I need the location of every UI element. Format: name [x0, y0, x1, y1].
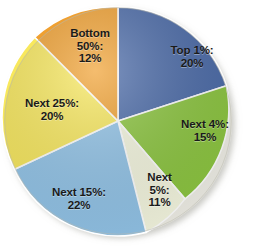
pie-chart-canvas [0, 0, 262, 252]
pie-chart: Top 1%: 20% Next 4%: 15% Next 5%: 11% Ne… [0, 0, 262, 252]
